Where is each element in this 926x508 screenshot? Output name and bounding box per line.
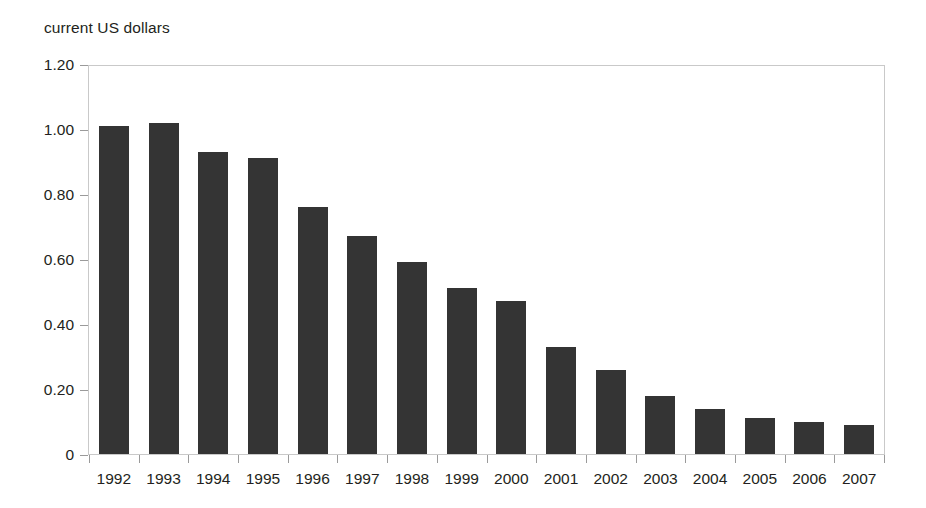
- bar-1995: [248, 158, 278, 454]
- x-tick-label: 2003: [636, 469, 686, 489]
- y-tick-label: 0.60: [44, 250, 74, 270]
- x-tick-mark: [785, 455, 786, 463]
- bar-slot: [785, 66, 835, 454]
- bar-slot: [387, 66, 437, 454]
- x-tick-mark: [188, 455, 189, 463]
- x-tick-label: 1992: [89, 469, 139, 489]
- bar-1992: [99, 126, 129, 454]
- y-tick-label: 0.40: [44, 315, 74, 335]
- x-axis-ticks: [89, 455, 884, 465]
- bar-slot: [89, 66, 139, 454]
- y-tick-label: 0.20: [44, 380, 74, 400]
- x-axis-labels: 1992199319941995199619971998199920002001…: [89, 469, 884, 493]
- bar-chart: current US dollars 199219931994199519961…: [0, 0, 926, 508]
- x-tick-label: 2006: [785, 469, 835, 489]
- x-tick-mark: [536, 455, 537, 463]
- y-tick-mark: [80, 390, 88, 391]
- bar-slot: [139, 66, 189, 454]
- x-tick-label: 2005: [735, 469, 785, 489]
- bar-slot: [735, 66, 785, 454]
- bar-2003: [645, 396, 675, 455]
- bar-slot: [586, 66, 636, 454]
- bar-2001: [546, 347, 576, 454]
- bar-1994: [198, 152, 228, 454]
- bar-2000: [496, 301, 526, 454]
- bar-1998: [397, 262, 427, 454]
- bar-2005: [745, 418, 775, 454]
- x-tick-label: 1995: [238, 469, 288, 489]
- x-tick-mark: [586, 455, 587, 463]
- bar-1997: [347, 236, 377, 454]
- x-tick-mark: [685, 455, 686, 463]
- y-tick-mark: [80, 455, 88, 456]
- x-tick-label: 1999: [437, 469, 487, 489]
- bar-slot: [487, 66, 537, 454]
- bar-2004: [695, 409, 725, 455]
- x-tick-mark: [89, 455, 90, 463]
- x-tick-mark: [288, 455, 289, 463]
- y-tick-mark: [80, 195, 88, 196]
- x-tick-label: 1993: [139, 469, 189, 489]
- bar-1993: [149, 123, 179, 455]
- x-tick-mark: [337, 455, 338, 463]
- bar-slot: [834, 66, 884, 454]
- bar-slot: [337, 66, 387, 454]
- x-tick-mark: [387, 455, 388, 463]
- x-tick-label: 2001: [536, 469, 586, 489]
- x-tick-mark: [238, 455, 239, 463]
- x-tick-mark: [636, 455, 637, 463]
- bars-group: [89, 66, 884, 454]
- y-tick-mark: [80, 325, 88, 326]
- bar-slot: [685, 66, 735, 454]
- bar-slot: [437, 66, 487, 454]
- x-tick-mark: [735, 455, 736, 463]
- bar-slot: [188, 66, 238, 454]
- y-tick-mark: [80, 130, 88, 131]
- y-tick-label: 0: [65, 445, 74, 465]
- y-tick-mark: [80, 260, 88, 261]
- x-tick-label: 1994: [188, 469, 238, 489]
- x-tick-label: 2002: [586, 469, 636, 489]
- x-tick-label: 1996: [288, 469, 338, 489]
- bar-slot: [238, 66, 288, 454]
- y-tick-label: 0.80: [44, 185, 74, 205]
- x-tick-label: 2007: [834, 469, 884, 489]
- bar-slot: [288, 66, 338, 454]
- x-tick-label: 1998: [387, 469, 437, 489]
- bar-slot: [536, 66, 586, 454]
- bar-1996: [298, 207, 328, 454]
- y-tick-label: 1.20: [44, 55, 74, 75]
- x-tick-label: 2000: [487, 469, 537, 489]
- x-tick-mark: [487, 455, 488, 463]
- y-tick-mark: [80, 65, 88, 66]
- x-tick-mark: [834, 455, 835, 463]
- y-axis-caption: current US dollars: [44, 18, 170, 37]
- bar-2007: [844, 425, 874, 454]
- bar-2002: [596, 370, 626, 455]
- x-tick-mark: [884, 455, 885, 463]
- bar-1999: [447, 288, 477, 454]
- x-tick-label: 1997: [337, 469, 387, 489]
- y-tick-label: 1.00: [44, 120, 74, 140]
- x-tick-label: 2004: [685, 469, 735, 489]
- x-tick-mark: [139, 455, 140, 463]
- bar-2006: [794, 422, 824, 455]
- x-tick-mark: [437, 455, 438, 463]
- bar-slot: [636, 66, 686, 454]
